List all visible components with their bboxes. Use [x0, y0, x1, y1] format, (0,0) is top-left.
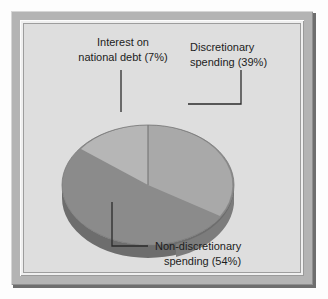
label-interest-line2: national debt (7%) [78, 51, 167, 63]
label-discretionary-line2: spending (39%) [190, 56, 267, 68]
label-discretionary-line1: Discretionary [190, 41, 255, 53]
label-nondiscretionary-line1: Non-discretionary [155, 240, 242, 252]
plot-area: Interest on national debt (7%) Discretio… [24, 24, 300, 272]
figure-root: Interest on national debt (7%) Discretio… [0, 0, 328, 299]
leader-line-discretionary [188, 70, 241, 104]
label-interest-line1: Interest on [97, 36, 149, 48]
pie-chart: Interest on national debt (7%) Discretio… [24, 24, 300, 272]
label-nondiscretionary-line2: spending (54%) [164, 255, 241, 267]
